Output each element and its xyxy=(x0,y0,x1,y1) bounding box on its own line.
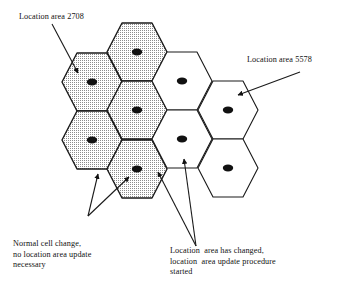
location-area-changed-label-line-1: Location area has changed, xyxy=(170,246,276,257)
location-area-5578-label-line-1: Location area 5578 xyxy=(247,55,312,66)
cell-center-dot xyxy=(132,49,142,56)
cell-center-dot xyxy=(177,78,187,85)
cell-center-dot xyxy=(223,165,233,172)
pointer-la-changed-right xyxy=(184,159,196,246)
location-area-changed-label-line-3: started xyxy=(170,267,276,278)
cell-center-dot xyxy=(87,137,97,144)
normal-cell-change-label-line-2: no location area update xyxy=(13,250,91,261)
normal-cell-change-label-line-1: Normal cell change, xyxy=(13,239,91,250)
cell-center-dot xyxy=(223,107,233,114)
normal-cell-change-label-line-3: necessary xyxy=(13,260,91,271)
pointer-to-location-area-5578 xyxy=(238,72,300,95)
pointer-la-changed-left xyxy=(158,172,196,246)
cell-center-dot xyxy=(177,136,187,143)
pointer-normal-change-left xyxy=(88,174,98,216)
location-area-2708-label-line-1: Location area 2708 xyxy=(19,12,84,23)
normal-cell-change-label: Normal cell change,no location area upda… xyxy=(13,239,91,271)
cellular-location-area-diagram: Location area 2708 Location area 5578 No… xyxy=(0,0,338,298)
cell-center-dot xyxy=(87,79,97,86)
location-area-changed-label-line-2: location area update procedure xyxy=(170,257,276,268)
cell-center-dot xyxy=(132,166,142,173)
location-area-changed-label: Location area has changed,location area … xyxy=(170,246,276,278)
cell-center-dot xyxy=(132,107,142,114)
location-area-2708-label: Location area 2708 xyxy=(19,12,84,23)
location-area-5578-label: Location area 5578 xyxy=(247,55,312,66)
pointer-to-location-area-2708 xyxy=(52,24,78,73)
